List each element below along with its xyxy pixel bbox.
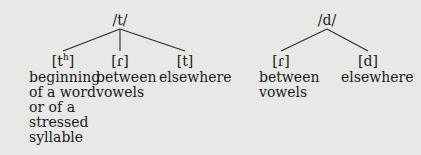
branch-d-to-d bbox=[327, 29, 368, 51]
context-beginning-of-word: beginning of a word or of a stressed syl… bbox=[29, 70, 100, 145]
allophone-aspirated-t: [th] bbox=[52, 53, 74, 69]
branch-t-to-t bbox=[120, 29, 185, 51]
allophone-plain-t: [t] bbox=[177, 53, 194, 69]
context-elsewhere-t: elsewhere bbox=[159, 70, 232, 85]
allophone-flap-t: [ɾ] bbox=[111, 53, 128, 69]
context-between-vowels-d: between vowels bbox=[259, 70, 319, 100]
context-elsewhere-d: elsewhere bbox=[341, 70, 414, 85]
branch-t-to-th bbox=[63, 29, 120, 51]
branch-d-to-flap bbox=[281, 29, 327, 51]
context-between-vowels-t: between vowels bbox=[96, 70, 156, 100]
phoneme-t-root: /t/ bbox=[112, 12, 127, 28]
allophone-bracket: ] bbox=[69, 53, 74, 69]
allophone-flap-d: [ɾ] bbox=[272, 53, 289, 69]
allophone-base: [t bbox=[52, 53, 63, 69]
phoneme-d-root: /d/ bbox=[318, 12, 336, 28]
allophone-plain-d: [d] bbox=[358, 53, 378, 69]
